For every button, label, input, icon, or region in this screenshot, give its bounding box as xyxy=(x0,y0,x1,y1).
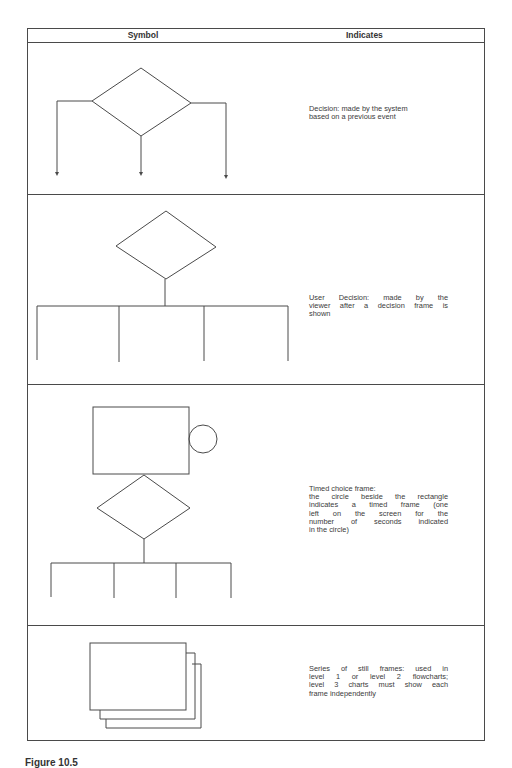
row-divider-2 xyxy=(28,384,484,385)
row-4-description: Series of still frames: used in level 1 … xyxy=(309,665,448,698)
row-divider-1 xyxy=(28,194,484,195)
table-header-row: Symbol Indicates xyxy=(28,29,484,43)
desc-line: in the circle) xyxy=(309,526,448,534)
row-3-description: Timed choice frame: the circle beside th… xyxy=(309,485,448,534)
desc-line: based on a previous event xyxy=(309,113,448,121)
figure-caption: Figure 10.5 xyxy=(25,757,78,768)
header-indicates: Indicates xyxy=(258,29,486,42)
symbol-table: Symbol Indicates xyxy=(27,28,485,741)
desc-line: shown xyxy=(309,310,448,318)
row-1-description: Decision: made by the system based on a … xyxy=(309,105,448,121)
row-2-description: User Decision: made by the viewer after … xyxy=(309,294,448,319)
row-divider-3 xyxy=(28,625,484,626)
header-symbol: Symbol xyxy=(28,29,258,42)
desc-line: frame independently xyxy=(309,690,448,698)
